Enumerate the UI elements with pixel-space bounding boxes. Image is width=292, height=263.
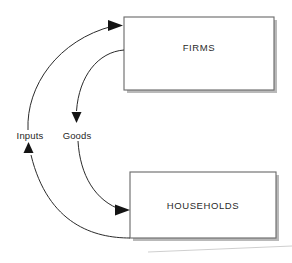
arrow-into-firms-icon [108, 20, 123, 31]
node-firms: FIRMS [124, 17, 277, 93]
inputs-curve-upper [28, 26, 113, 130]
inputs-curve-lower [31, 155, 130, 238]
goods-curve-lower [78, 141, 122, 210]
firms-label: FIRMS [183, 42, 216, 53]
diagram-canvas: FIRMS HOUSEHOLDS [0, 0, 292, 263]
arrow-goods-down-icon [72, 112, 82, 123]
arrow-inputs-up-icon [24, 142, 34, 153]
circular-flow-diagram: FIRMS HOUSEHOLDS [0, 0, 292, 263]
edge-label-inputs: Inputs [17, 130, 44, 141]
arrow-into-households-icon [115, 205, 130, 216]
scan-artifact-line [148, 246, 292, 252]
edge-inputs [24, 20, 131, 238]
goods-curve-upper [77, 50, 125, 111]
households-label: HOUSEHOLDS [167, 200, 240, 211]
firms-box [124, 17, 274, 90]
node-households: HOUSEHOLDS [130, 172, 279, 241]
edge-label-goods: Goods [63, 130, 92, 141]
